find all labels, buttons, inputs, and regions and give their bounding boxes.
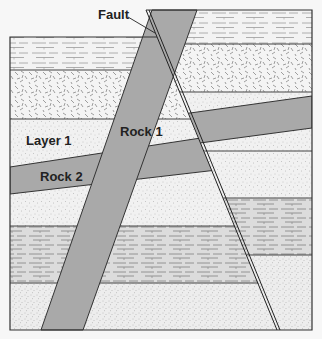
rock-2-label: Rock 2 [40,169,83,184]
cross-section-diagram: Fault Rock 1 Layer 1 Rock 2 [0,0,322,339]
fault-label: Fault [98,7,130,22]
rock-1-label: Rock 1 [120,124,163,139]
layer-1-label: Layer 1 [26,133,72,148]
